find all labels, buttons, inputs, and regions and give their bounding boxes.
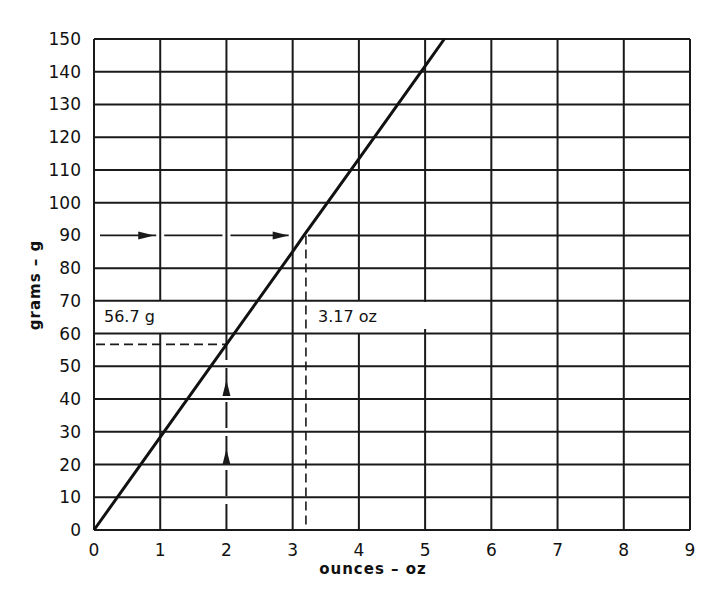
y-tick-label: 50 xyxy=(59,356,81,376)
x-tick-label: 4 xyxy=(353,540,364,560)
y-tick-label: 140 xyxy=(49,62,81,82)
arrow-right-icon xyxy=(138,231,154,239)
y-tick-label: 70 xyxy=(59,291,81,311)
arrow-up-icon xyxy=(222,380,230,396)
x-tick-label: 3 xyxy=(287,540,298,560)
y-tick-label: 0 xyxy=(70,520,81,540)
x-tick-label: 7 xyxy=(552,540,563,560)
x-tick-label: 6 xyxy=(486,540,497,560)
y-tick-label: 120 xyxy=(49,127,81,147)
annotation-ounces: 3.17 oz xyxy=(318,307,377,326)
x-tick-label: 1 xyxy=(155,540,166,560)
y-tick-label: 90 xyxy=(59,225,81,245)
y-axis-ticks: 0102030405060708090100110120130140150 xyxy=(49,29,81,540)
x-tick-label: 5 xyxy=(420,540,431,560)
y-axis-title: grams – g xyxy=(26,240,44,331)
x-axis-title: ounces – oz xyxy=(319,560,427,578)
y-tick-label: 80 xyxy=(59,258,81,278)
conversion-line-path xyxy=(94,39,444,530)
conversion-chart: 0102030405060708090100110120130140150 01… xyxy=(0,0,724,605)
arrow-right-icon xyxy=(273,231,289,239)
x-tick-label: 2 xyxy=(221,540,232,560)
y-tick-label: 60 xyxy=(59,324,81,344)
x-tick-label: 9 xyxy=(685,540,696,560)
arrow-up-icon xyxy=(222,449,230,465)
x-tick-label: 0 xyxy=(89,540,100,560)
y-tick-label: 100 xyxy=(49,193,81,213)
y-tick-label: 40 xyxy=(59,389,81,409)
y-tick-label: 110 xyxy=(49,160,81,180)
annotation-grams: 56.7 g xyxy=(104,307,155,326)
x-axis-ticks: 0123456789 xyxy=(89,540,696,560)
y-tick-label: 130 xyxy=(49,94,81,114)
y-tick-label: 20 xyxy=(59,455,81,475)
x-tick-label: 8 xyxy=(618,540,629,560)
y-tick-label: 30 xyxy=(59,422,81,442)
y-tick-label: 10 xyxy=(59,487,81,507)
conversion-line xyxy=(94,39,444,530)
y-tick-label: 150 xyxy=(49,29,81,49)
